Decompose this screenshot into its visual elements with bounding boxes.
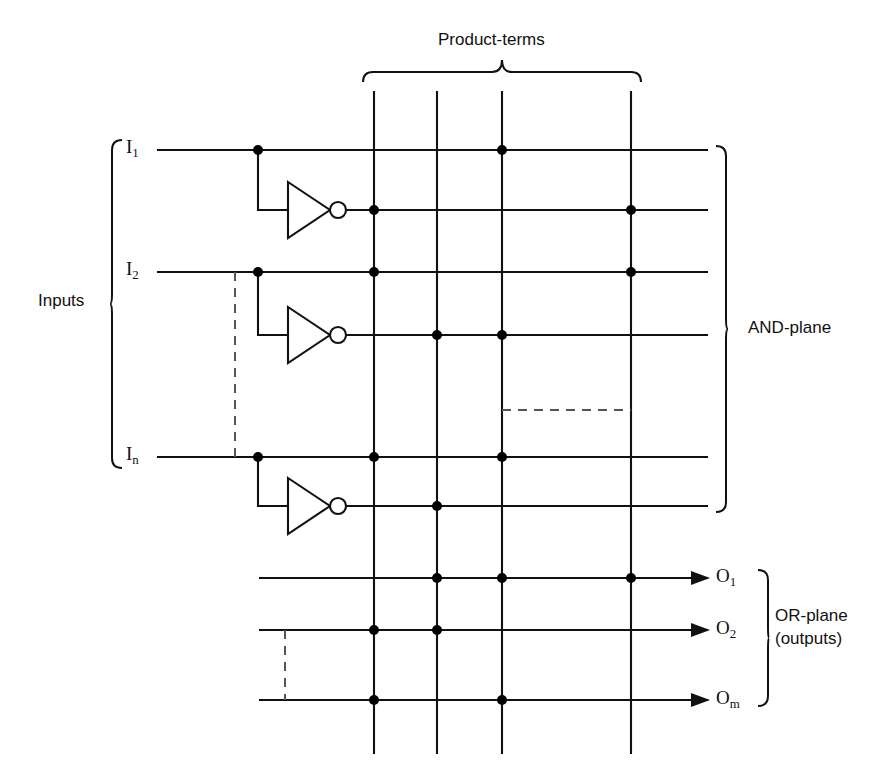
- inputs-group-label: Inputs: [38, 291, 84, 311]
- output-arrow-Om: [691, 693, 710, 707]
- crosspoint-dot: [369, 695, 379, 705]
- pla-diagram-figure: Product-terms I1 I2 In Inputs AND-plane …: [0, 0, 892, 783]
- pla-schematic-canvas: [0, 0, 892, 783]
- crosspoint-dot: [497, 330, 507, 340]
- crosspoint-dot: [432, 330, 442, 340]
- output-label-Om: Om: [716, 687, 740, 711]
- crosspoint-dot: [369, 625, 379, 635]
- and-plane-label: AND-plane: [748, 318, 831, 338]
- output-arrow-O1: [691, 571, 710, 585]
- input-label-I2: I2: [126, 258, 139, 282]
- crosspoint-dot: [626, 205, 636, 215]
- inverter-bubble-0: [330, 202, 346, 218]
- inverter-triangle-2: [288, 478, 330, 534]
- crosspoint-dot: [626, 573, 636, 583]
- inputs-brace: [110, 140, 122, 468]
- crosspoint-dot: [369, 205, 379, 215]
- product-terms-brace: [363, 60, 641, 82]
- crosspoint-dot: [253, 452, 263, 462]
- input-label-I1: I1: [126, 136, 139, 160]
- crosspoint-dot: [432, 625, 442, 635]
- output-arrow-O2: [691, 623, 710, 637]
- crosspoint-dot: [432, 501, 442, 511]
- crosspoint-dot: [432, 573, 442, 583]
- inverter-bubble-2: [330, 498, 346, 514]
- inverter-input-wire-1: [258, 272, 288, 335]
- or-plane-label-line2: (outputs): [775, 629, 842, 649]
- inverter-triangle-1: [288, 307, 330, 363]
- input-label-In: In: [126, 443, 139, 467]
- crosspoint-dot: [626, 267, 636, 277]
- crosspoint-dot: [253, 145, 263, 155]
- crosspoint-dot: [369, 267, 379, 277]
- inverter-bubble-1: [330, 327, 346, 343]
- or-plane-brace: [758, 570, 769, 706]
- inverter-triangle-0: [288, 182, 330, 238]
- crosspoint-dot: [253, 267, 263, 277]
- or-plane-label-line1: OR-plane: [775, 606, 848, 626]
- inverter-input-wire-0: [258, 150, 288, 210]
- output-label-O1: O1: [716, 565, 736, 589]
- crosspoint-dot: [369, 452, 379, 462]
- output-label-O2: O2: [716, 617, 736, 641]
- inverter-input-wire-2: [258, 457, 288, 506]
- crosspoint-dot: [497, 145, 507, 155]
- crosspoint-dot: [497, 573, 507, 583]
- crosspoint-dot: [497, 452, 507, 462]
- and-plane-brace: [716, 146, 728, 512]
- crosspoint-dot: [497, 695, 507, 705]
- product-terms-label: Product-terms: [438, 30, 545, 50]
